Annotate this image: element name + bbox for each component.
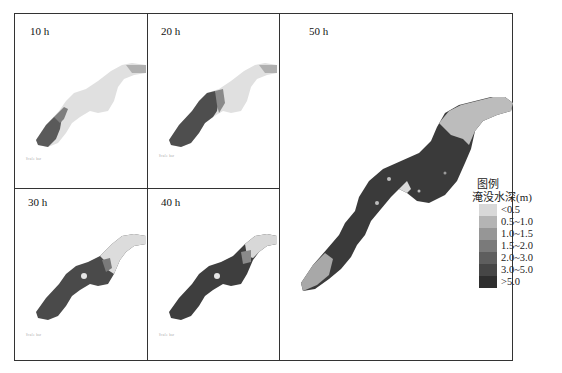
legend-swatch	[479, 204, 497, 216]
legend-swatch	[479, 264, 497, 276]
inundation-map-20h	[147, 13, 279, 188]
legend-item: 1.5~2.0	[477, 240, 533, 252]
map-panel-10h: 10 h Scale bar	[14, 13, 147, 188]
scale-bar: Scale bar	[159, 154, 175, 158]
legend-item: 1.0~1.5	[477, 228, 533, 240]
legend: 图例 淹没水深(m) <0.5 0.5~1.0 1.0~1.5 1.5~2.0 …	[477, 178, 533, 288]
legend-item: <0.5	[477, 204, 533, 216]
scale-bar: Scale bar	[26, 333, 42, 337]
legend-swatch	[479, 228, 497, 240]
legend-item: 2.0~3.0	[477, 252, 533, 264]
legend-swatch	[479, 240, 497, 252]
map-panel-30h: 30 h Scale bar	[14, 188, 147, 361]
legend-item: 0.5~1.0	[477, 216, 533, 228]
legend-swatch	[479, 216, 497, 228]
inundation-map-10h	[14, 13, 147, 188]
legend-swatch	[479, 252, 497, 264]
map-panel-20h: 20 h Scale bar	[147, 13, 279, 188]
map-panel-40h: 40 h Scale bar	[147, 188, 279, 361]
legend-swatch	[479, 276, 497, 288]
scale-bar: Scale bar	[159, 333, 175, 337]
scale-bar: Scale bar	[26, 157, 42, 161]
legend-item: >5.0	[477, 276, 533, 288]
legend-item: 3.0~5.0	[477, 264, 533, 276]
legend-title: 淹没水深(m)	[472, 191, 533, 204]
legend-heading: 图例	[477, 178, 533, 191]
